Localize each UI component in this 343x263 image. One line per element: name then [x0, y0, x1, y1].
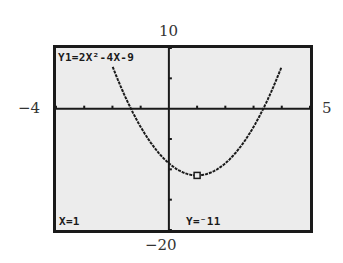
- trace-y-value: Y=⁻11: [186, 216, 221, 227]
- window-ymin-label: −20: [145, 238, 177, 253]
- window-ymax-label: 10: [159, 24, 178, 39]
- equation-label: Y1=2X²-4X-9: [58, 52, 134, 63]
- trace-cursor-icon[interactable]: [194, 172, 200, 178]
- graph-plot: [56, 48, 310, 230]
- trace-x-value: X=1: [59, 216, 80, 227]
- parabola-curve: [113, 67, 282, 175]
- window-xmax-label: 5: [322, 101, 332, 116]
- calculator-screen: Y1=2X²-4X-9 X=1 Y=⁻11: [53, 45, 313, 233]
- window-xmin-label: −4: [18, 101, 40, 116]
- axes: [56, 48, 310, 230]
